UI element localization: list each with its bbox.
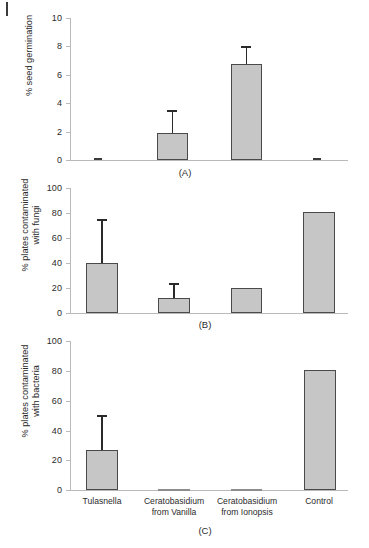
panel-b-bar-ceratobasidium-vanilla — [158, 298, 190, 313]
x-label-ceratobasidium-ionopsis: Ceratobasidium from Ionopsis — [213, 496, 281, 517]
panel-c-x-axis — [70, 490, 348, 491]
panel-a-bar-ceratobasidium-vanilla — [157, 133, 188, 160]
panel-b-errorbar-cap-tulasnella — [97, 219, 107, 221]
page-edge-mark — [6, 2, 8, 16]
panel-b-ytick-40: 40 — [36, 258, 62, 268]
panel-b-ytick-20: 20 — [36, 283, 62, 293]
panel-b-ytick-60: 60 — [36, 233, 62, 243]
panel-a-caption: (A) — [165, 167, 205, 178]
panel-b-ytick-100: 100 — [36, 183, 62, 193]
panel-a-ytick-2: 2 — [40, 127, 62, 137]
figure-container: % seed germination 10 8 6 4 2 0 (A) % pl… — [0, 0, 369, 548]
x-label-tulasnella: Tulasnella — [72, 496, 132, 507]
panel-a-zero-marker-control — [313, 158, 321, 160]
panel-b-ytick-0: 0 — [36, 308, 62, 318]
panel-b-x-axis — [70, 313, 348, 314]
panel-c-zero-marker-ceratobasidium-vanilla — [158, 489, 190, 491]
panel-a-ytick-8: 8 — [40, 41, 62, 51]
panel-c-y-axis — [70, 341, 71, 491]
panel-c-ytick-80: 80 — [36, 366, 62, 376]
panel-c-caption: (C) — [185, 525, 225, 536]
panel-a-y-axis — [70, 18, 71, 161]
panel-a-errorbar-cap-ceratobasidium-vanilla — [167, 110, 177, 112]
panel-c-ytick-100: 100 — [36, 336, 62, 346]
panel-c-zero-marker-ceratobasidium-ionopsis — [231, 489, 262, 491]
panel-c-ytick-20: 20 — [36, 455, 62, 465]
panel-a-errorbar-cap-ceratobasidium-ionopsis — [241, 46, 251, 48]
panel-a-bar-ceratobasidium-ionopsis — [231, 64, 262, 160]
panel-a-ytick-6: 6 — [40, 70, 62, 80]
panel-c-ytick-0: 0 — [36, 485, 62, 495]
panel-a-errorbar-stem-ceratobasidium-ionopsis — [246, 46, 248, 64]
panel-c-errorbar-stem-tulasnella — [101, 415, 103, 450]
panel-c-errorbar-cap-tulasnella — [97, 415, 107, 417]
panel-a-errorbar-stem-ceratobasidium-vanilla — [172, 110, 174, 133]
panel-b-bar-ceratobasidium-ionopsis — [231, 288, 262, 313]
panel-b-y-axis — [70, 188, 71, 314]
panel-a-zero-marker-tulasnella — [94, 158, 102, 160]
panel-b-caption: (B) — [185, 319, 225, 330]
panel-c-bar-control — [304, 370, 336, 490]
panel-b-y-axis-title: % plates contaminated with fungi — [20, 155, 42, 295]
panel-b-ytick-80: 80 — [36, 208, 62, 218]
panel-c-ytick-40: 40 — [36, 426, 62, 436]
panel-a-ytick-10: 10 — [40, 13, 62, 23]
panel-b-bar-tulasnella — [86, 263, 118, 313]
panel-c-ytick-60: 60 — [36, 396, 62, 406]
panel-b-errorbar-stem-ceratobasidium-vanilla — [173, 283, 175, 298]
panel-a-x-axis — [70, 160, 348, 161]
panel-b-errorbar-cap-ceratobasidium-vanilla — [169, 283, 179, 285]
panel-a-ytick-4: 4 — [40, 98, 62, 108]
panel-b-errorbar-stem-tulasnella — [101, 219, 103, 263]
panel-a-ytick-0: 0 — [40, 155, 62, 165]
panel-c-bar-tulasnella — [86, 450, 118, 490]
x-label-control: Control — [293, 496, 345, 507]
panel-b-bar-control — [303, 212, 335, 313]
x-label-ceratobasidium-vanilla: Ceratobasidium from Vanilla — [141, 496, 207, 517]
panel-a-y-axis-title: % seed germination — [24, 0, 35, 116]
